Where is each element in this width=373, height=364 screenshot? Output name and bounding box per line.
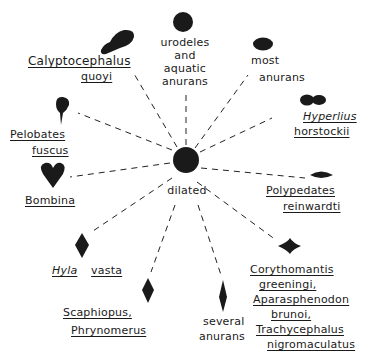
tilted-teardrop-pupil-icon — [101, 30, 134, 54]
lens-pupil-icon — [310, 172, 333, 179]
label-word: Hyla — [52, 264, 77, 277]
label-line: several — [199, 315, 245, 328]
label-corythomantis: Corythomantis greeningi, Aparasphenodon … — [250, 262, 355, 352]
label-line: fuscus — [10, 144, 69, 157]
label-line: greeningi, — [250, 277, 355, 292]
label-line: Bombina — [25, 194, 75, 207]
spoke-lines — [70, 72, 305, 275]
label-scaphiopus: Scaphiopus, Phrynomerus — [63, 306, 146, 337]
label-line: nigromaculatus — [250, 337, 355, 352]
label-several-anurans: several anurans — [199, 315, 245, 343]
label-line: Trachycephalus — [250, 322, 355, 337]
heart-pupil-icon — [41, 163, 65, 188]
label-hyperlius: Hyperlius horstockii — [300, 110, 357, 138]
label-urodeles: urodeles and aquatic anurans — [150, 36, 220, 88]
label-line: Pelobates — [10, 128, 69, 141]
label-line: brunoi, — [250, 307, 355, 322]
inverted-teardrop-pupil-icon — [56, 97, 69, 125]
tall-diamond-pupil-icon — [219, 280, 227, 312]
label-line: Scaphiopus, — [63, 306, 146, 319]
spoke-hyperlius — [200, 118, 272, 152]
spoke-scaphiopus — [151, 205, 175, 272]
spoke-several-anurans — [198, 205, 221, 275]
label-line: most — [249, 54, 305, 67]
label-pelobates: Pelobates fuscus — [10, 128, 69, 157]
label-line: Polypedates — [266, 184, 341, 197]
round-pupil-icon — [173, 12, 193, 32]
label-calyptocephalus: Calyptocephalus quoyi — [28, 55, 131, 83]
label-line: horstockii — [294, 125, 357, 138]
label-center: dilated — [163, 184, 211, 197]
label-line: aquatic — [150, 62, 220, 75]
center-dilated-pupil-icon — [173, 147, 199, 173]
label-bombina: Bombina — [25, 194, 75, 207]
label-line: anurans — [150, 75, 220, 88]
label-line: and — [150, 49, 220, 62]
label-most-anurans: most anurans — [249, 54, 305, 84]
label-hyla: Hyla vasta — [52, 264, 122, 277]
spoke-polypedates — [201, 168, 305, 178]
bilobed-pupil-icon — [300, 95, 326, 106]
label-word: vasta — [91, 264, 122, 277]
label-line: Hyperlius — [300, 110, 357, 123]
label-line: anurans — [199, 330, 245, 343]
vertical-diamond-pupil-icon-scaphiopus — [142, 278, 154, 303]
spoke-bombina — [70, 163, 170, 177]
horizontal-diamond-pupil-icon — [278, 238, 301, 254]
horizontal-oval-pupil-icon — [253, 38, 273, 51]
label-line: Phrynomerus — [63, 324, 146, 337]
label-line: Calyptocephalus — [28, 55, 131, 68]
label-polypedates: Polypedates reinwardti — [266, 184, 341, 213]
label-line: quoyi — [28, 70, 131, 83]
spoke-hyla — [90, 178, 172, 233]
label-line: urodeles — [150, 36, 220, 49]
spoke-pelobates — [78, 113, 172, 150]
label-dilated: dilated — [167, 184, 206, 197]
label-line: Corythomantis — [250, 262, 355, 277]
vertical-diamond-pupil-icon-hyla — [75, 233, 89, 258]
label-line: anurans — [249, 71, 305, 84]
label-line: Aparasphenodon — [250, 292, 355, 307]
label-line: reinwardti — [266, 200, 341, 213]
